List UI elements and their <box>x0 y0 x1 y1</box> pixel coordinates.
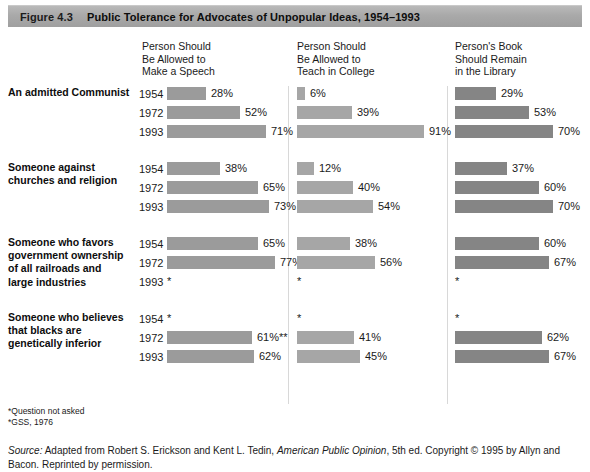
bar <box>455 125 553 138</box>
year-label: 1993 <box>139 201 165 213</box>
group-rows: 195428%6%29%197252%39%53%199371%91%70% <box>0 86 590 141</box>
bar <box>455 162 507 175</box>
year-label: 1972 <box>139 182 165 194</box>
bar-value-label: 38% <box>225 162 247 174</box>
group-rows: 195438%12%37%197265%40%60%199373%54%70% <box>0 161 590 216</box>
bar <box>297 106 352 119</box>
chart-row: 1954*** <box>0 311 590 328</box>
column-header-library: Person's Book Should Remain in the Libra… <box>455 40 527 78</box>
bar <box>167 181 258 194</box>
bar <box>297 162 314 175</box>
bar-value-label: 60% <box>544 181 566 193</box>
figure-title: Public Tolerance for Advocates of Unpopu… <box>87 11 420 23</box>
bar <box>455 200 553 213</box>
chart-group: Someone who believes that blacks are gen… <box>0 311 590 366</box>
bar-value-label: 60% <box>544 237 566 249</box>
not-asked-marker: * <box>297 312 301 324</box>
chart-row: 199371%91%70% <box>0 124 590 141</box>
footnote-question-not-asked: *Question not asked <box>8 406 85 417</box>
bar-value-label: 41% <box>359 331 381 343</box>
not-asked-marker: * <box>167 275 171 287</box>
bar-value-label: 38% <box>355 237 377 249</box>
chart-row: 197265%40%60% <box>0 180 590 197</box>
group-rows: 195465%38%60%197277%56%67%1993*** <box>0 236 590 291</box>
chart-row: 195438%12%37% <box>0 161 590 178</box>
bar <box>455 87 496 100</box>
bar-value-label: 53% <box>534 106 556 118</box>
bar-value-label: 6% <box>310 87 326 99</box>
bar-value-label: 52% <box>245 106 267 118</box>
chart-row: 195428%6%29% <box>0 86 590 103</box>
source-note: Source: Adapted from Robert S. Erickson … <box>8 444 582 471</box>
not-asked-marker: * <box>297 275 301 287</box>
bar <box>167 237 258 250</box>
bar <box>455 237 539 250</box>
bar-value-label: 39% <box>357 106 379 118</box>
bar-value-label: 37% <box>512 162 534 174</box>
not-asked-marker: * <box>455 312 459 324</box>
bar-value-label: 67% <box>554 256 576 268</box>
column-headers: Person Should Be Allowed to Make a Speec… <box>0 40 590 86</box>
not-asked-marker: * <box>167 312 171 324</box>
year-label: 1954 <box>139 313 165 325</box>
year-label: 1972 <box>139 332 165 344</box>
figure-number: Figure 4.3 <box>20 11 73 23</box>
chart-row: 197261%**41%62% <box>0 330 590 347</box>
bar-value-label: 54% <box>378 200 400 212</box>
column-header-teach: Person Should Be Allowed to Teach in Col… <box>297 40 375 78</box>
bar <box>167 331 252 344</box>
source-book-title: American Public Opinion <box>277 445 387 456</box>
bar-value-label: 62% <box>259 350 281 362</box>
bar-value-label: 62% <box>547 331 569 343</box>
chart-group: Someone who favors government ownership … <box>0 236 590 291</box>
year-label: 1993 <box>139 351 165 363</box>
not-asked-marker: * <box>455 275 459 287</box>
bar-value-label: 67% <box>554 350 576 362</box>
bar-value-label: 12% <box>319 162 341 174</box>
year-label: 1954 <box>139 88 165 100</box>
footnotes: *Question not asked *GSS, 1976 <box>8 406 85 427</box>
year-label: 1954 <box>139 238 165 250</box>
column-header-speech: Person Should Be Allowed to Make a Speec… <box>142 40 215 78</box>
bar-value-label: 70% <box>558 200 580 212</box>
source-text-before: Adapted from Robert S. Erickson and Kent… <box>42 445 276 456</box>
chart-body: An admitted Communist195428%6%29%197252%… <box>0 86 590 386</box>
bar <box>297 350 360 363</box>
year-label: 1993 <box>139 276 165 288</box>
bar <box>297 256 375 269</box>
footnote-gss: *GSS, 1976 <box>8 417 85 428</box>
group-rows: 1954***197261%**41%62%199362%45%67% <box>0 311 590 366</box>
chart-group: An admitted Communist195428%6%29%197252%… <box>0 86 590 141</box>
bar <box>167 256 275 269</box>
bar-value-label: 65% <box>263 181 285 193</box>
bar <box>297 331 354 344</box>
year-label: 1954 <box>139 163 165 175</box>
year-label: 1972 <box>139 107 165 119</box>
bar <box>167 125 266 138</box>
chart-row: 1993*** <box>0 274 590 291</box>
bar <box>455 181 539 194</box>
bar-value-label: 56% <box>380 256 402 268</box>
bar <box>167 162 220 175</box>
chart-group: Someone against churches and religion195… <box>0 161 590 216</box>
bar-value-label: 71% <box>271 125 293 137</box>
chart-row: 197252%39%53% <box>0 105 590 122</box>
chart-row: 199373%54%70% <box>0 199 590 216</box>
bar <box>297 200 373 213</box>
bar <box>297 181 353 194</box>
bar <box>167 87 206 100</box>
year-label: 1993 <box>139 126 165 138</box>
bar <box>297 237 350 250</box>
bar <box>167 200 269 213</box>
bar <box>455 331 542 344</box>
chart-row: 197277%56%67% <box>0 255 590 272</box>
bar-value-label: 73% <box>274 200 296 212</box>
bar-value-label: 28% <box>211 87 233 99</box>
bar-value-label: 61%** <box>257 331 288 343</box>
bar <box>455 106 529 119</box>
bar-value-label: 65% <box>263 237 285 249</box>
bar <box>297 87 305 100</box>
bar <box>455 256 549 269</box>
year-label: 1972 <box>139 257 165 269</box>
bar-value-label: 29% <box>501 87 523 99</box>
